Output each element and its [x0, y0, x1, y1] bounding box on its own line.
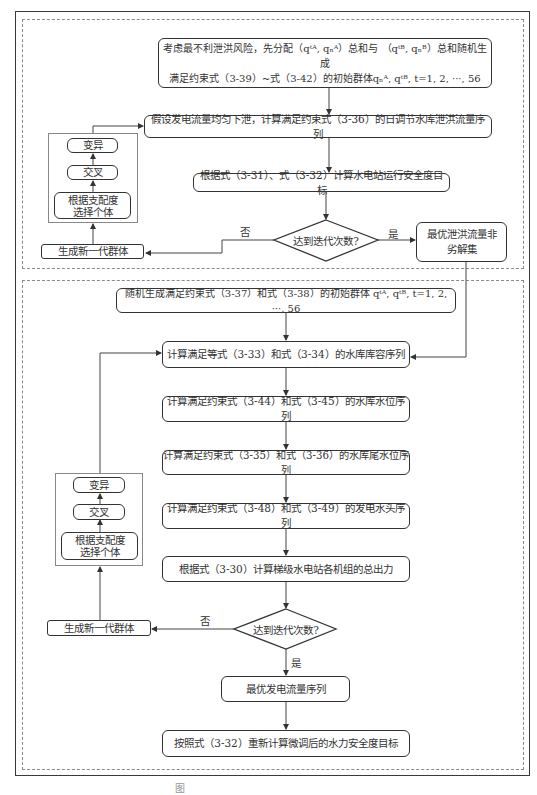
flood-pareto-line2: 劣解集 — [447, 242, 477, 257]
upper-crossover-label: 交叉 — [83, 165, 103, 180]
upper-decision-text: 达到迭代次数? — [293, 233, 359, 248]
lower-decision-text: 达到迭代次数? — [253, 622, 319, 637]
lower-crossover-box: 交叉 — [73, 504, 125, 520]
upper-mutation-box: 变异 — [67, 138, 118, 153]
upper-no-label: 否 — [240, 224, 250, 239]
step-flood-sequence-label: 假设发电流量均匀下泄，计算满足约束式（3-36）的日调节水库泄洪流量序列 — [149, 112, 487, 142]
step-flood-sequence: 假设发电流量均匀下泄，计算满足约束式（3-36）的日调节水库泄洪流量序列 — [144, 115, 492, 138]
step-safety-objective-label: 根据式（3-31）、式（3-32）计算水电站运行安全度目标 — [198, 168, 445, 198]
step-safety-objective: 根据式（3-31）、式（3-32）计算水电站运行安全度目标 — [193, 173, 450, 192]
upper-mutation-label: 变异 — [83, 138, 103, 153]
upper-new-generation-label: 生成新一代群体 — [58, 244, 128, 259]
figure-caption: 图 — [160, 780, 200, 790]
lower-decision-label: 达到迭代次数? — [244, 621, 328, 637]
upper-init-line1: 考虑最不利泄洪风险，先分配（qᵗᴬ, qₙᴬ）总和与 （qᵗᴮ, qₙᴮ）总和随… — [163, 41, 487, 71]
lower-new-generation-box: 生成新一代群体 — [47, 620, 151, 636]
upper-crossover-box: 交叉 — [67, 165, 118, 180]
lower-yes-label: 是 — [291, 655, 301, 670]
step-tail-level-label: 计算满足约束式（3-35）和式（3-36）的水库尾水位序列 — [163, 448, 409, 478]
lower-selection-line2: 选择个体 — [80, 546, 120, 558]
lower-crossover-label: 交叉 — [89, 505, 109, 520]
step-tail-level: 计算满足约束式（3-35）和式（3-36）的水库尾水位序列 — [162, 450, 410, 475]
step-storage: 计算满足等式（3-33）和式（3-34）的水库库容序列 — [162, 341, 410, 368]
upper-yes-label: 是 — [388, 226, 398, 241]
lower-init-box: 随机生成满足约束式（3-37）和式（3-38）的初始群体 qᵗᴬ, qᵗᴮ, t… — [116, 288, 456, 313]
step-output-label: 根据式（3-30）计算梯级水电站各机组的总出力 — [179, 562, 393, 577]
lower-mutation-label: 变异 — [89, 478, 109, 493]
step-storage-label: 计算满足等式（3-33）和式（3-34）的水库库容序列 — [167, 347, 404, 362]
step-water-level: 计算满足约束式（3-44）和式（3-45）的水库水位序列 — [162, 396, 410, 422]
step-output: 根据式（3-30）计算梯级水电站各机组的总出力 — [162, 556, 410, 582]
lower-no-label: 否 — [200, 613, 210, 628]
upper-init-box: 考虑最不利泄洪风险，先分配（qᵗᴬ, qₙᴬ）总和与 （qᵗᴮ, qₙᴮ）总和随… — [158, 38, 492, 88]
lower-selection-box: 根据支配度 选择个体 — [61, 532, 138, 560]
step-head-label: 计算满足约束式（3-48）和式（3-49）的发电水头序列 — [167, 501, 405, 531]
upper-selection-line1: 根据支配度 — [68, 194, 118, 206]
upper-selection-line2: 选择个体 — [73, 206, 113, 218]
step-water-level-label: 计算满足约束式（3-44）和式（3-45）的水库水位序列 — [167, 394, 405, 424]
upper-new-generation-box: 生成新一代群体 — [41, 244, 144, 259]
optimal-power-flow-box: 最优发电流量序列 — [221, 676, 350, 702]
upper-init-line2: 满足约束式（3-39）~式（3-42）的初始群体qₙᴬ, qᵗᴮ, t=1, 2… — [169, 71, 480, 86]
upper-selection-box: 根据支配度 选择个体 — [54, 192, 131, 219]
lower-mutation-box: 变异 — [73, 477, 125, 493]
lower-selection-line1: 根据支配度 — [75, 534, 125, 546]
flood-pareto-result-box: 最优泄洪流量非 劣解集 — [416, 222, 507, 262]
final-recalc-box: 按照式（3-32）重新计算微调后的水力安全度目标 — [162, 730, 410, 757]
lower-new-generation-label: 生成新一代群体 — [64, 621, 134, 636]
optimal-power-flow-label: 最优发电流量序列 — [246, 682, 326, 697]
step-head: 计算满足约束式（3-48）和式（3-49）的发电水头序列 — [162, 503, 410, 529]
upper-decision-label: 达到迭代次数? — [284, 232, 368, 248]
flood-pareto-line1: 最优泄洪流量非 — [427, 227, 497, 242]
lower-init-label: 随机生成满足约束式（3-37）和式（3-38）的初始群体 qᵗᴬ, qᵗᴮ, t… — [121, 286, 451, 316]
final-recalc-label: 按照式（3-32）重新计算微调后的水力安全度目标 — [174, 736, 398, 751]
